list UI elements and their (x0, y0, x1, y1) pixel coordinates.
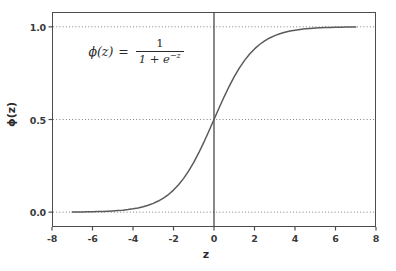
x-tick-label-8: 8 (373, 233, 379, 244)
x-tick-label--4: -4 (128, 233, 138, 244)
x-tick-label--2: -2 (168, 233, 178, 244)
x-tick-label-6: 6 (332, 233, 338, 244)
y-tick-label-1.0: 1.0 (8, 21, 46, 32)
x-tick-label-0: 0 (211, 233, 217, 244)
formula-denominator: 1 + e−z (136, 52, 184, 67)
formula-numerator: 1 (150, 37, 169, 52)
formula-left-hand-side: ϕ(z) (88, 44, 113, 59)
y-axis-title: ϕ(z) (5, 85, 18, 145)
x-tick-label-4: 4 (292, 233, 298, 244)
x-tick-label--8: -8 (47, 233, 57, 244)
y-axis-title-text: ϕ(z) (5, 102, 18, 127)
x-tick-label-2: 2 (251, 233, 257, 244)
formula-fraction: 1 1 + e−z (136, 37, 184, 67)
formula-denominator-exponent: −z (170, 52, 181, 61)
y-tick-label-0.0: 0.0 (8, 207, 46, 218)
sigmoid-formula-annotation: ϕ(z) = 1 1 + e−z (88, 37, 183, 67)
x-tick-label--6: -6 (87, 233, 97, 244)
figure-canvas: -8-6-4-202468 0.00.51.0 z ϕ(z) ϕ(z) = 1 … (0, 0, 396, 271)
x-axis-title-text: z (203, 248, 209, 261)
formula-equals-sign: = (118, 44, 128, 59)
x-axis-title: z (0, 248, 396, 261)
x-tickmarks-group (52, 227, 376, 231)
formula-denominator-base: 1 + e (139, 52, 170, 66)
